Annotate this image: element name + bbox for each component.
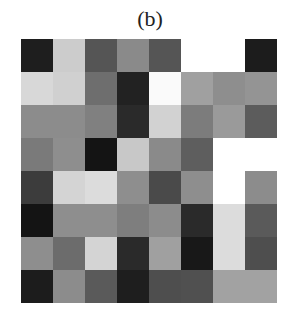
heatmap-cell-r2-c0 xyxy=(21,105,53,138)
heatmap-cell-r4-c1 xyxy=(53,171,85,204)
heatmap-cell-r3-c0 xyxy=(21,138,53,171)
heatmap-cell-r2-c2 xyxy=(85,105,117,138)
heatmap-cell-r1-c1 xyxy=(53,72,85,105)
heatmap-cell-r3-c1 xyxy=(53,138,85,171)
heatmap-cell-r1-c5 xyxy=(181,72,213,105)
heatmap-cell-r6-c4 xyxy=(149,237,181,270)
heatmap-cell-r1-c7 xyxy=(245,72,277,105)
heatmap-cell-r3-c5 xyxy=(181,138,213,171)
heatmap-cell-r5-c3 xyxy=(117,204,149,237)
heatmap-cell-r5-c2 xyxy=(85,204,117,237)
heatmap-cell-r2-c3 xyxy=(117,105,149,138)
heatmap-cell-r5-c7 xyxy=(245,204,277,237)
heatmap-cell-r5-c0 xyxy=(21,204,53,237)
heatmap-cell-r5-c6 xyxy=(213,204,245,237)
heatmap-cell-r7-c3 xyxy=(117,270,149,303)
heatmap-cell-r0-c4 xyxy=(149,39,181,72)
heatmap-cell-r1-c4 xyxy=(149,72,181,105)
heatmap-cell-r6-c7 xyxy=(245,237,277,270)
heatmap-cell-r0-c1 xyxy=(53,39,85,72)
chart-title: (b) xyxy=(0,6,296,32)
heatmap-cell-r6-c0 xyxy=(21,237,53,270)
heatmap-cell-r0-c0 xyxy=(21,39,53,72)
heatmap-cell-r5-c4 xyxy=(149,204,181,237)
heatmap-cell-r2-c4 xyxy=(149,105,181,138)
heatmap-cell-r1-c6 xyxy=(213,72,245,105)
heatmap-cell-r4-c6 xyxy=(213,171,245,204)
heatmap-cell-r7-c1 xyxy=(53,270,85,303)
heatmap-cell-r6-c6 xyxy=(213,237,245,270)
heatmap-cell-r4-c3 xyxy=(117,171,149,204)
heatmap-cell-r3-c7 xyxy=(245,138,277,171)
heatmap-cell-r5-c5 xyxy=(181,204,213,237)
heatmap-cell-r6-c5 xyxy=(181,237,213,270)
heatmap-cell-r1-c2 xyxy=(85,72,117,105)
heatmap-cell-r7-c5 xyxy=(181,270,213,303)
heatmap-cell-r7-c6 xyxy=(213,270,245,303)
heatmap-cell-r4-c7 xyxy=(245,171,277,204)
heatmap-cell-r4-c0 xyxy=(21,171,53,204)
heatmap-cell-r2-c6 xyxy=(213,105,245,138)
heatmap-cell-r1-c3 xyxy=(117,72,149,105)
heatmap-cell-r7-c4 xyxy=(149,270,181,303)
heatmap-cell-r2-c5 xyxy=(181,105,213,138)
heatmap-cell-r3-c3 xyxy=(117,138,149,171)
heatmap-cell-r4-c2 xyxy=(85,171,117,204)
heatmap-cell-r7-c0 xyxy=(21,270,53,303)
heatmap-cell-r2-c7 xyxy=(245,105,277,138)
heatmap-cell-r3-c2 xyxy=(85,138,117,171)
heatmap-cell-r0-c2 xyxy=(85,39,117,72)
heatmap-cell-r4-c5 xyxy=(181,171,213,204)
grayscale-heatmap-grid xyxy=(21,39,277,303)
heatmap-cell-r6-c1 xyxy=(53,237,85,270)
heatmap-cell-r7-c2 xyxy=(85,270,117,303)
heatmap-cell-r0-c5 xyxy=(181,39,213,72)
heatmap-cell-r2-c1 xyxy=(53,105,85,138)
heatmap-cell-r0-c3 xyxy=(117,39,149,72)
heatmap-cell-r5-c1 xyxy=(53,204,85,237)
heatmap-cell-r3-c4 xyxy=(149,138,181,171)
heatmap-cell-r1-c0 xyxy=(21,72,53,105)
heatmap-cell-r3-c6 xyxy=(213,138,245,171)
heatmap-cell-r6-c3 xyxy=(117,237,149,270)
heatmap-cell-r7-c7 xyxy=(245,270,277,303)
heatmap-cell-r4-c4 xyxy=(149,171,181,204)
heatmap-cell-r0-c7 xyxy=(245,39,277,72)
heatmap-cell-r0-c6 xyxy=(213,39,245,72)
heatmap-cell-r6-c2 xyxy=(85,237,117,270)
